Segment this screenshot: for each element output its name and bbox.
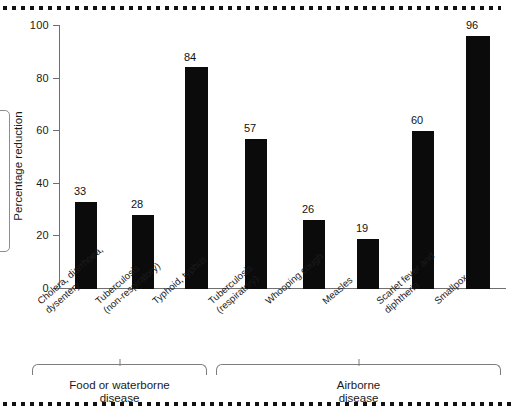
group-label-line1: Airborne bbox=[337, 379, 380, 391]
bar-measles[interactable] bbox=[357, 239, 379, 289]
bar-value-scarlet-fever-diphtheria: 60 bbox=[399, 114, 435, 126]
y-tick-label-60: 60 bbox=[9, 124, 49, 136]
bar-value-cholera-diarrhoea-dysentery: 33 bbox=[62, 185, 98, 197]
group-label-airborne: Airborne disease bbox=[216, 379, 501, 405]
y-axis-title: Percentage reduction bbox=[12, 86, 24, 246]
group-label-line2: disease bbox=[100, 392, 140, 404]
group-bracket-food-waterborne bbox=[32, 364, 207, 375]
dotted-rule-top bbox=[3, 6, 501, 10]
plot-area bbox=[59, 25, 505, 289]
group-label-line1: Food or waterborne bbox=[69, 379, 169, 391]
bar-value-tuberculosis-non-respiratory: 28 bbox=[119, 198, 155, 210]
figure-container: Percentage reduction 100 80 60 40 20 0 bbox=[0, 0, 517, 413]
bar-value-smallpox: 96 bbox=[454, 19, 490, 31]
bar-value-measles: 19 bbox=[344, 222, 380, 234]
group-bracket-airborne bbox=[216, 364, 501, 375]
bar-value-tuberculosis-respiratory: 57 bbox=[232, 122, 268, 134]
bar-smallpox[interactable] bbox=[466, 36, 490, 289]
y-tick-label-20: 20 bbox=[9, 229, 49, 241]
y-tick-label-40: 40 bbox=[9, 177, 49, 189]
group-label-food-waterborne: Food or waterborne disease bbox=[32, 379, 207, 405]
y-tick-label-80: 80 bbox=[9, 72, 49, 84]
group-label-line2: disease bbox=[339, 392, 379, 404]
bar-value-typhoid-typhus: 84 bbox=[172, 51, 208, 63]
bar-value-whooping-cough: 26 bbox=[290, 203, 326, 215]
y-tick-label-100: 100 bbox=[9, 19, 49, 31]
